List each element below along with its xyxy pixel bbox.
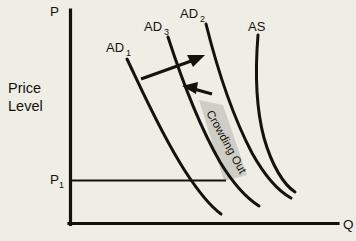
curve-label-ad3-base: AD bbox=[144, 19, 162, 34]
curve-label-ad2-subscript: 2 bbox=[200, 14, 205, 24]
curve-label-ad1-subscript: 1 bbox=[126, 48, 131, 58]
diagram-canvas: P Q Price Level P 1 AD 1 AD 3 AD 2 AS Cr… bbox=[0, 0, 356, 241]
price-level-tick-base: P bbox=[50, 172, 59, 187]
curve-label-ad1-base: AD bbox=[106, 40, 124, 55]
curve-label-ad1: AD 1 bbox=[106, 40, 131, 58]
curve-label-as: AS bbox=[248, 19, 266, 34]
ad-as-diagram-svg: P Q Price Level P 1 AD 1 AD 3 AD 2 AS Cr… bbox=[0, 0, 356, 241]
y-axis-top-label: P bbox=[50, 4, 59, 19]
price-level-tick-subscript: 1 bbox=[59, 180, 64, 190]
expansion-arrow-shaft bbox=[141, 60, 194, 79]
expansion-arrow bbox=[141, 55, 205, 79]
y-axis-name-line2: Level bbox=[8, 98, 43, 114]
curve-label-ad2-base: AD bbox=[180, 6, 198, 21]
x-axis-end-label: Q bbox=[343, 217, 354, 232]
curve-label-ad3: AD 3 bbox=[144, 19, 169, 37]
curve-label-ad2: AD 2 bbox=[180, 6, 205, 24]
price-level-tick-label: P 1 bbox=[50, 172, 64, 190]
y-axis-name-line1: Price bbox=[8, 80, 41, 96]
curve-label-ad3-subscript: 3 bbox=[164, 27, 169, 37]
